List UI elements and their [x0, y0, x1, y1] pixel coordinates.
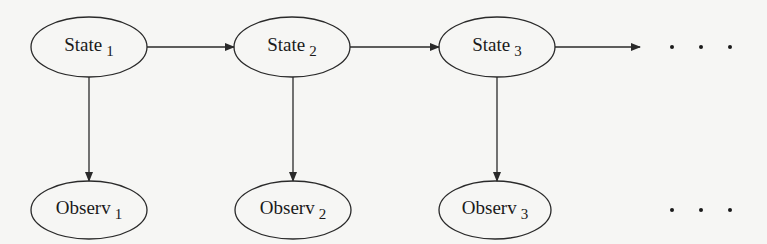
- hmm-diagram: State1 State2 State3 Observ1 Observ2 Obs…: [0, 0, 767, 244]
- observ-2-label: Observ2: [260, 197, 326, 223]
- observ-1-label: Observ1: [56, 197, 122, 223]
- state-2-label: State2: [267, 34, 317, 60]
- state-1-label: State1: [64, 34, 114, 60]
- ellipsis-top: [670, 45, 732, 49]
- ellipsis-bottom: [670, 208, 732, 212]
- observ-3-label: Observ3: [462, 197, 528, 223]
- state-3-label: State3: [472, 34, 522, 60]
